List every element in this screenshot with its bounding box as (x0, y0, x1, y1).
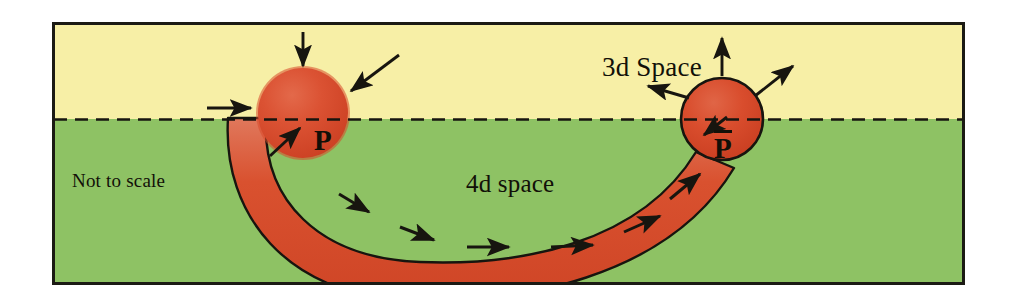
flow-arrow-4 (551, 245, 593, 247)
regions-group (52, 22, 965, 301)
label-antiparticle-p-bar-text: P (714, 130, 732, 163)
label-antiparticle-p-bar: P (714, 130, 732, 163)
left-particle-sphere (256, 66, 350, 160)
diagram-canvas: 3d Space 4d space Not to scale P P (0, 0, 1012, 302)
label-not-to-scale: Not to scale (72, 170, 165, 192)
physics-diagram-svg (0, 0, 1012, 302)
label-particle-p: P (314, 124, 332, 157)
label-4d-space: 4d space (466, 170, 554, 198)
label-3d-space: 3d Space (602, 52, 702, 83)
region-3d-space-fill (52, 22, 965, 120)
left-sphere-body (258, 68, 348, 158)
